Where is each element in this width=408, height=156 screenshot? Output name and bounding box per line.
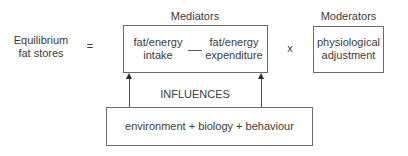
moderators-line2: adjustment [314,49,383,62]
minus-operator [188,43,202,51]
lhs-line1: Equilibrium [5,34,77,47]
intake-line1: fat/energy [130,36,186,49]
moderators-text: physiological adjustment [314,36,383,62]
moderators-box: physiological adjustment [313,26,384,73]
equals-sign: = [84,40,96,53]
expenditure-text: fat/energy expenditure [202,36,266,62]
lhs-line2: fat stores [5,47,77,60]
intake-text: fat/energy intake [130,36,186,62]
intake-line2: intake [130,49,186,62]
influences-box: environment + biology + behaviour [106,107,313,146]
mediators-title: Mediators [155,10,235,23]
right-arrow-head-icon [258,73,264,79]
multiply-sign: x [284,42,296,55]
influences-text: environment + biology + behaviour [107,120,312,133]
expenditure-line2: expenditure [202,49,266,62]
moderators-line1: physiological [314,36,383,49]
influences-label: INFLUENCES [155,88,235,101]
moderators-title: Moderators [313,10,384,23]
minus-line [188,50,202,51]
left-arrow-head-icon [126,73,132,79]
right-arrow-shaft [261,79,262,107]
expenditure-line1: fat/energy [202,36,266,49]
mediators-box: fat/energy intake fat/energy expenditure [123,25,268,73]
equilibrium-fat-stores-label: Equilibrium fat stores [5,34,77,60]
left-arrow-shaft [129,79,130,107]
